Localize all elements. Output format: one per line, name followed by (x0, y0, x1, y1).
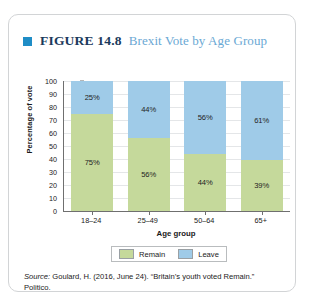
y-axis-tick-labels: 1009080706050403020100 (31, 81, 57, 211)
chart-legend: RemainLeave (111, 246, 227, 262)
y-axis-tick-label: 50 (31, 142, 57, 151)
source-label: Source: (24, 272, 50, 281)
figure-number: FIGURE 14.8 (40, 33, 122, 49)
bar-slot: 44%56% (121, 81, 178, 211)
x-axis-tick-mark (92, 211, 93, 215)
bar-segment-remain[interactable]: 39% (241, 160, 283, 211)
figure-header: FIGURE 14.8 Brexit Vote by Age Group (23, 31, 285, 51)
legend-item[interactable]: Leave (178, 249, 219, 259)
x-axis-tick-label: 18–24 (63, 216, 120, 225)
y-axis-tick-label: 10 (31, 194, 57, 203)
bar-segment-leave[interactable]: 61% (241, 81, 283, 160)
y-axis-tick-label: 60 (31, 129, 57, 138)
x-axis-tick-mark (205, 211, 206, 215)
bar-segment-leave[interactable]: 44% (128, 81, 170, 138)
bar-slot: 61%39% (234, 81, 291, 211)
stacked-bar[interactable]: 61%39% (241, 81, 283, 211)
figure-subtitle: Brexit Vote by Age Group (129, 33, 267, 49)
stacked-bar[interactable]: 56%44% (184, 81, 226, 211)
legend-swatch-icon (178, 249, 193, 259)
bar-slot: 56%44% (177, 81, 234, 211)
y-axis-tick-label: 0 (31, 207, 57, 216)
y-axis-tick-label: 70 (31, 116, 57, 125)
y-axis-tick-label: 100 (31, 77, 57, 86)
x-axis-tick-mark (149, 211, 150, 215)
x-axis-tick-label: 25–49 (120, 216, 177, 225)
x-axis-tick-label: 50–64 (176, 216, 233, 225)
legend-label: Remain (139, 250, 165, 259)
x-axis-tick-labels: 18–2425–4950–6465+ (63, 216, 289, 225)
y-axis-tick-label: 20 (31, 181, 57, 190)
source-text: Goulard, H. (2016, June 24). “Britain’s … (24, 272, 254, 292)
y-axis-tick-label: 90 (31, 90, 57, 99)
bar-segment-leave[interactable]: 25% (71, 81, 113, 114)
bar-segment-remain[interactable]: 75% (71, 114, 113, 212)
bar-segment-remain[interactable]: 56% (128, 138, 170, 211)
legend-item[interactable]: Remain (119, 249, 165, 259)
plot-area: 25%75%44%56%56%44%61%39% (63, 81, 290, 212)
y-axis-tick-label: 80 (31, 103, 57, 112)
bar-group: 25%75%44%56%56%44%61%39% (64, 81, 290, 211)
bar-segment-leave[interactable]: 56% (184, 81, 226, 154)
x-axis-tick-mark (262, 211, 263, 215)
legend-label: Leave (198, 250, 219, 259)
stacked-bar[interactable]: 44%56% (128, 81, 170, 211)
y-axis-tick-label: 40 (31, 155, 57, 164)
figure-card: FIGURE 14.8 Brexit Vote by Age Group Per… (8, 14, 296, 292)
bar-slot: 25%75% (64, 81, 121, 211)
chart-plot-wrapper: Percentage of vote 100908070605040302010… (9, 63, 297, 235)
y-axis-tick-label: 30 (31, 168, 57, 177)
x-axis-title: Age group (63, 229, 289, 238)
x-axis-tick-label: 65+ (233, 216, 290, 225)
legend-swatch-icon (119, 249, 134, 259)
bar-segment-remain[interactable]: 44% (184, 154, 226, 211)
blue-square-bullet-icon (23, 37, 32, 46)
stacked-bar[interactable]: 25%75% (71, 81, 113, 211)
source-note: Source: Goulard, H. (2016, June 24). “Br… (24, 271, 279, 293)
